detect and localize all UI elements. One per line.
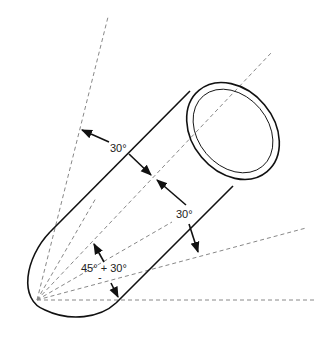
upper-angle-arrow-right	[129, 154, 151, 175]
cylinder-angle-diagram: 30° 30° 45° + 30° -	[0, 0, 329, 338]
right-angle-arrow-down	[189, 224, 198, 252]
lower-angle-label: 45° + 30°	[81, 262, 127, 274]
diagram-canvas: 30° 30° 45° + 30° -	[0, 0, 329, 338]
cylinder-top-inner-rim	[177, 73, 290, 188]
reference-line-15deg	[37, 228, 306, 300]
lower-angle-sub-mark: -	[98, 271, 102, 283]
upper-angle-arrow-left	[82, 130, 109, 142]
reference-line-30deg	[37, 222, 172, 300]
cylinder-bottom-end	[28, 232, 116, 317]
lower-angle-arrow-down	[111, 283, 118, 297]
reference-line-60deg	[37, 198, 96, 300]
right-angle-label: 30°	[176, 208, 193, 220]
cylinder-upper-edge	[50, 91, 190, 232]
cylinder-axis-line	[37, 53, 271, 300]
right-angle-arrow-up	[157, 180, 186, 205]
lower-angle-arrow-up	[94, 244, 104, 262]
cylinder-top-outer-rim	[168, 64, 299, 198]
upper-angle-label: 30°	[110, 142, 127, 154]
cylinder-lower-edge	[116, 186, 233, 303]
reference-line-75deg	[37, 17, 108, 300]
